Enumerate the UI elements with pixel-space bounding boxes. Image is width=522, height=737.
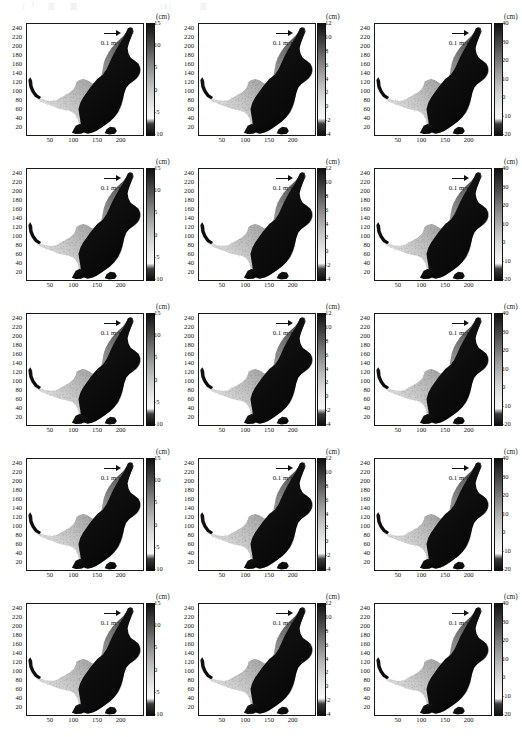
y-axis-tick: 80 [187,387,194,394]
y-axis-tick: 80 [187,677,194,684]
y-axis: 24022020018016014012010080604020 [0,313,24,424]
map-panel-r4c2[interactable]: (cm) 24022020018016014012010080604020 [348,592,522,737]
y-axis-tick: 160 [184,351,194,358]
colorbar-tick: -5 [154,254,160,261]
colorbar-tick: 2 [325,524,328,531]
colorbar-tick: 8 [325,628,328,635]
plot-area[interactable]: 0.1 m·s-1 [198,168,316,281]
colorbar-tick: 12 [325,20,332,27]
y-axis-tick: 220 [184,178,194,185]
vector-scale-legend: 0.1 m·s-1 [435,465,487,485]
colorbar-tick: 30 [502,328,509,335]
x-axis-tick: 50 [394,426,401,433]
map-panel-r1c0[interactable]: (cm) 24022020018016014012010080604020 [0,157,174,302]
colorbar-tick: 10 [325,179,332,186]
map-panel-r1c1[interactable]: (cm) 24022020018016014012010080604020 [174,157,348,302]
map-panel-r2c1[interactable]: (cm) 24022020018016014012010080604020 [174,302,348,447]
y-axis-tick: 100 [184,668,194,675]
y-axis-tick: 20 [363,269,370,276]
y-axis-tick: 60 [187,686,194,693]
colorbar-tick: 6 [325,206,328,213]
y-axis-tick: 240 [360,24,370,31]
y-axis-tick: 60 [363,541,370,548]
map-panel-r2c0[interactable]: (cm) 24022020018016014012010080604020 [0,302,174,447]
vector-scale-label: 0.1 m·s-1 [259,182,311,192]
colorbar-tick: 15 [154,165,161,172]
y-axis-tick: 20 [187,124,194,131]
map-panel-r2c2[interactable]: (cm) 24022020018016014012010080604020 [348,302,522,447]
plot-area[interactable]: 0.1 m·s-1 [374,458,492,571]
plot-area[interactable]: 0.1 m·s-1 [374,23,492,136]
y-axis-tick: 200 [360,187,370,194]
plot-area[interactable]: 0.1 m·s-1 [198,603,316,716]
x-axis-tick: 200 [116,716,126,723]
colorbar-tick: 4 [325,655,328,662]
plot-area[interactable]: 0.1 m·s-1 [198,313,316,426]
plot-area[interactable]: 0.1 m·s-1 [26,23,144,136]
vector-scale-legend: 0.1 m·s-1 [259,175,311,195]
y-axis-tick: 140 [360,505,370,512]
colorbar-tick: 0 [325,538,328,545]
x-axis-tick: 50 [394,571,401,578]
colorbar-tick: 10 [154,622,161,629]
map-panel-r3c0[interactable]: (cm) 24022020018016014012010080604020 [0,447,174,592]
x-axis-tick: 150 [440,281,450,288]
colorbar-tick: 20 [502,492,509,499]
plot-area[interactable]: 0.1 m·s-1 [198,458,316,571]
y-axis-tick: 160 [184,61,194,68]
y-axis-tick: 120 [184,79,194,86]
vector-scale-legend: 0.1 m·s-1 [435,610,487,630]
y-axis-tick: 40 [15,405,22,412]
x-axis-tick: 200 [116,571,126,578]
vector-scale-legend: 0.1 m·s-1 [435,175,487,195]
colorbar-tick: -10 [502,547,511,554]
plot-area[interactable]: 0.1 m·s-1 [26,603,144,716]
map-panel-r0c0[interactable]: (cm) 24022020018016014012010080604020 [0,12,174,157]
y-axis-tick: 20 [363,559,370,566]
colorbar-tick: -10 [502,402,511,409]
colorbar-tick: -2 [325,697,331,704]
plot-area[interactable]: 0.1 m·s-1 [374,313,492,426]
x-axis-tick: 200 [288,281,298,288]
map-panel-r1c2[interactable]: (cm) 24022020018016014012010080604020 [348,157,522,302]
y-axis-tick: 160 [12,206,22,213]
colorbar-tick: 2 [325,89,328,96]
colorbar-tick: 6 [325,61,328,68]
y-axis-tick: 180 [184,341,194,348]
map-panel-r3c2[interactable]: (cm) 24022020018016014012010080604020 [348,447,522,592]
colorbar-tick: 40 [502,600,509,607]
plot-area[interactable]: 0.1 m·s-1 [374,603,492,716]
y-axis-tick: 200 [12,332,22,339]
y-axis-tick: 220 [12,323,22,330]
plot-area[interactable]: 0.1 m·s-1 [374,168,492,281]
y-axis-tick: 200 [360,477,370,484]
colorbar-tick: 10 [154,42,161,49]
x-axis-tick: 100 [240,426,250,433]
y-axis: 24022020018016014012010080604020 [0,458,24,569]
map-panel-r4c1[interactable]: (cm) 24022020018016014012010080604020 [174,592,348,737]
map-panel-r0c1[interactable]: (cm) 24022020018016014012010080604020 [174,12,348,157]
x-axis-tick: 200 [464,136,474,143]
y-axis-tick: 140 [12,505,22,512]
colorbar-tick: -4 [325,276,331,283]
plot-area[interactable]: 0.1 m·s-1 [26,458,144,571]
map-panel-r3c1[interactable]: (cm) 24022020018016014012010080604020 [174,447,348,592]
plot-area[interactable]: 0.1 m·s-1 [26,168,144,281]
y-axis-tick: 240 [360,314,370,321]
y-axis-tick: 160 [184,496,194,503]
x-axis: 50100150200 [26,280,142,292]
colorbar-tick: 10 [325,614,332,621]
vector-scale-legend: 0.1 m·s-1 [259,30,311,50]
map-panel-r4c0[interactable]: (cm) 24022020018016014012010080604020 [0,592,174,737]
colorbar-tick: 20 [502,57,509,64]
y-axis-tick: 40 [363,115,370,122]
vector-scale-label: 0.1 m·s-1 [87,182,139,192]
map-panel-r0c2[interactable]: (cm) 24022020018016014012010080604020 [348,12,522,157]
colorbar-tick: -2 [325,262,331,269]
plot-area[interactable]: 0.1 m·s-1 [198,23,316,136]
y-axis-tick: 20 [15,414,22,421]
plot-area[interactable]: 0.1 m·s-1 [26,313,144,426]
colorbar-tick: 40 [502,165,509,172]
y-axis-tick: 240 [184,604,194,611]
y-axis-tick: 40 [187,260,194,267]
